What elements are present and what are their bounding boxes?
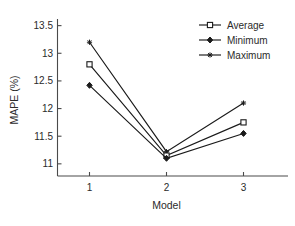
- x-tick-label-3: 3: [241, 182, 247, 193]
- square-marker: [87, 62, 92, 67]
- figure-container: 13.5 13 12.5 12 11.5 11 1 2 3 Model MAPE…: [0, 0, 295, 226]
- square-marker: [207, 22, 212, 27]
- square-marker: [241, 120, 246, 125]
- caption-fragment: [0, 218, 295, 226]
- x-axis-title: Model: [152, 199, 181, 211]
- legend-label-average: Average: [227, 20, 265, 31]
- star-marker: [241, 100, 246, 105]
- line-chart: 13.5 13 12.5 12 11.5 11 1 2 3 Model MAPE…: [0, 0, 295, 226]
- star-marker: [87, 40, 92, 45]
- x-tick-label-1: 1: [87, 182, 93, 193]
- legend-label-minimum: Minimum: [227, 35, 268, 46]
- y-axis-title: MAPE (%): [8, 75, 20, 124]
- y-tick-label-13-5: 13.5: [34, 20, 54, 31]
- x-tick-label-2: 2: [164, 182, 170, 193]
- y-tick-label-13: 13: [42, 48, 54, 59]
- star-marker: [207, 52, 212, 57]
- legend-label-maximum: Maximum: [227, 50, 270, 61]
- y-tick-label-11: 11: [43, 158, 54, 169]
- y-tick-label-11-5: 11.5: [34, 131, 53, 142]
- y-tick-label-12: 12: [42, 103, 54, 114]
- legend: Average Minimum Maximum: [199, 20, 270, 61]
- y-tick-label-12-5: 12.5: [34, 75, 54, 86]
